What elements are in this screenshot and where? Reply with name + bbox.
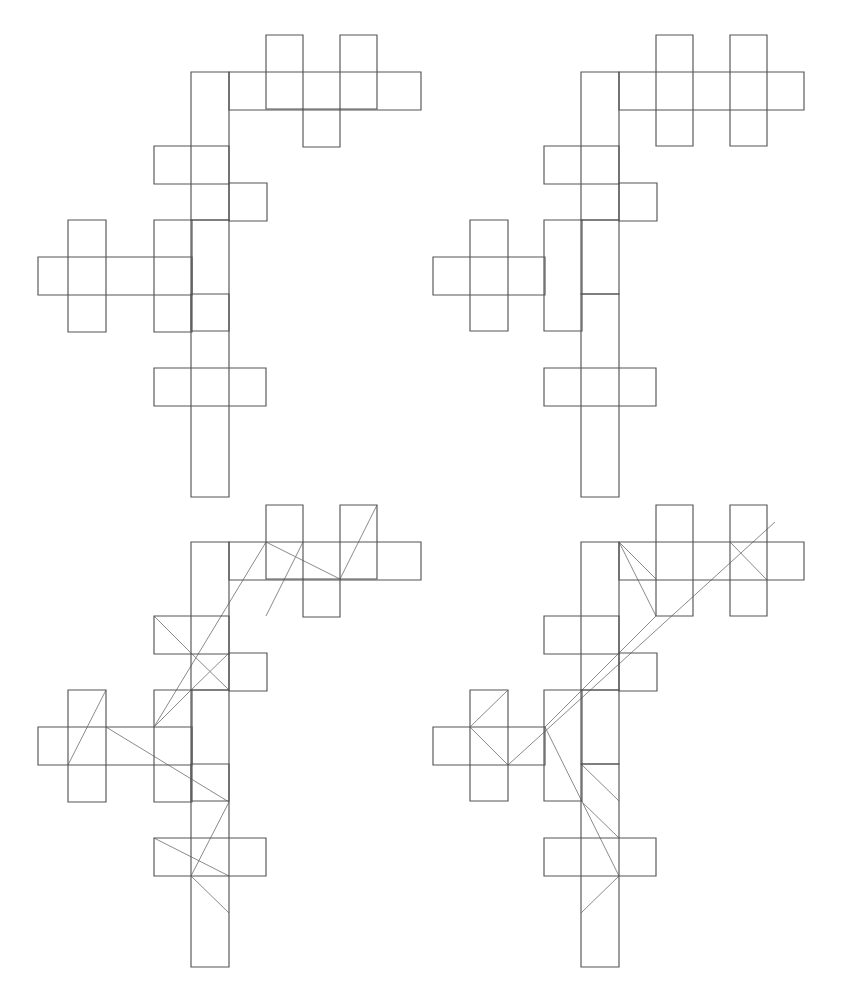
packing-rectangle — [544, 220, 582, 331]
contact-graph-edge — [191, 802, 229, 876]
contact-graph-edge — [154, 542, 266, 727]
panel-packing-a-with-graph — [38, 505, 421, 967]
packing-rectangle — [229, 183, 267, 221]
contact-graph-edge — [581, 876, 619, 913]
packing-rectangle — [154, 368, 266, 406]
packing-rectangle — [433, 257, 545, 295]
contact-graph-edge — [619, 542, 656, 579]
contact-graph-edge — [730, 542, 767, 580]
packing-rectangle — [656, 35, 693, 146]
packing-rectangle — [656, 505, 693, 616]
packing-rectangle — [154, 690, 192, 802]
packing-rectangle — [154, 838, 266, 876]
contact-graph-edge — [508, 522, 775, 765]
packing-rectangle — [619, 542, 804, 580]
packing-rectangle — [68, 220, 106, 332]
packing-rectangle — [154, 220, 192, 332]
packing-rectangle — [191, 294, 229, 497]
panel-packing-a-plain — [38, 35, 421, 497]
panel-packing-b-with-graph — [433, 505, 804, 967]
packing-rectangle — [229, 653, 267, 691]
contact-graph-edge — [470, 690, 508, 727]
packing-rectangle — [191, 690, 229, 801]
contact-graph-edge — [619, 542, 656, 616]
packing-rectangle — [619, 72, 804, 110]
packing-rectangle — [191, 220, 229, 331]
packing-rectangle — [229, 542, 421, 580]
packing-rectangle — [68, 690, 106, 802]
panel-packing-b-plain — [433, 35, 804, 497]
packing-rectangle — [581, 294, 619, 497]
packing-rectangle — [229, 72, 421, 110]
packing-rectangle — [619, 183, 657, 221]
contact-graph-edge — [581, 801, 619, 838]
contact-graph-edge — [470, 727, 508, 765]
packing-rectangle — [303, 579, 340, 617]
contact-graph-edge — [191, 876, 229, 913]
figure-root — [0, 0, 845, 995]
packing-rectangle — [581, 690, 619, 764]
rectangle-packing-figure — [0, 0, 845, 995]
packing-rectangle — [544, 368, 656, 406]
packing-rectangle — [544, 838, 656, 876]
packing-rectangle — [303, 109, 340, 147]
contact-graph-edge — [154, 616, 191, 653]
packing-rectangle — [38, 257, 192, 295]
packing-rectangle — [470, 220, 508, 331]
packing-rectangle — [730, 35, 767, 146]
packing-rectangle — [581, 220, 619, 294]
contact-graph-edge — [581, 764, 619, 801]
packing-rectangle — [544, 690, 582, 801]
